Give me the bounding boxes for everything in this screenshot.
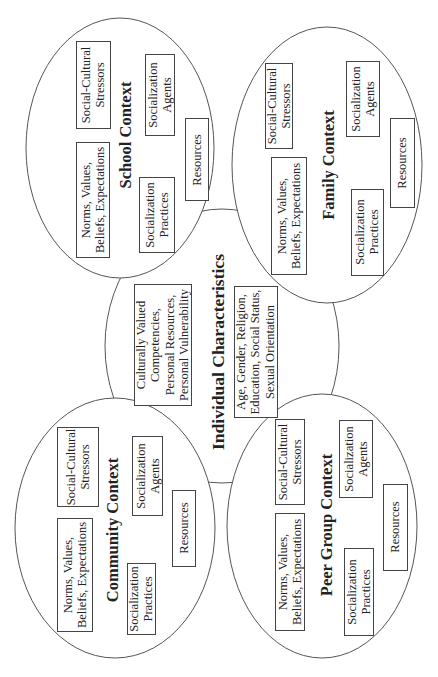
family-norms-text: Norms, Values, Beliefs, Expectations xyxy=(275,163,304,269)
family-title: Family Context xyxy=(320,110,339,220)
family-stressors-text: Social-Cultural Stressors xyxy=(265,68,294,144)
demographics-text: Age, Gender, Religion, Education, Social… xyxy=(234,290,277,415)
family-practices-text: Socialization Practices xyxy=(353,199,382,264)
family-resources-text: Resources xyxy=(395,137,409,188)
school-stressors-text: Social-Cultural Stressors xyxy=(79,47,108,123)
community-practices-text: Socialization Practices xyxy=(127,566,156,631)
family-agents-text: Socialization Agents xyxy=(349,66,378,131)
school-agents-text: Socialization Agents xyxy=(146,62,175,127)
community-title: Community Context xyxy=(104,458,123,602)
peer-title: Peer Group Context xyxy=(318,454,337,596)
peer-agents-text: Socialization Agents xyxy=(342,426,371,491)
community-stressors-text: Social-Cultural Stressors xyxy=(64,429,93,505)
school-norms-text: Norms, Values, Beliefs, Expectations xyxy=(79,147,108,253)
peer-norms-text: Norms, Values, Beliefs, Expectations xyxy=(276,519,305,625)
school-title: School Context xyxy=(117,82,136,189)
central-title: Individual Characteristics xyxy=(208,254,228,450)
school-resources-text: Resources xyxy=(190,134,204,185)
community-resources-text: Resources xyxy=(177,502,191,553)
community-norms-text: Norms, Values, Beliefs, Expectations xyxy=(61,522,90,628)
school-practices-text: Socialization Practices xyxy=(143,182,172,247)
peer-resources-text: Resources xyxy=(388,501,402,552)
peer-stressors-text: Social-Cultural Stressors xyxy=(276,424,305,500)
community-agents-text: Socialization Agents xyxy=(134,443,163,508)
competencies-text: Culturally Valued Competencies, Personal… xyxy=(134,289,192,401)
peer-practices-text: Socialization Practices xyxy=(345,559,374,624)
